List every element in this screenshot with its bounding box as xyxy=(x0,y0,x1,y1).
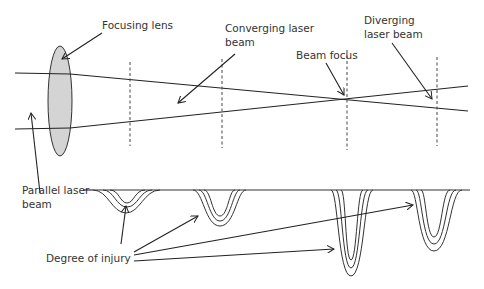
converging-beam-label-2: beam xyxy=(225,36,255,48)
focusing-lens-shape xyxy=(48,46,72,156)
diverging-beam-label-1: Diverging xyxy=(364,14,415,26)
parallel-beam-label-2: beam xyxy=(22,198,52,210)
beam-focus-label: Beam focus xyxy=(296,49,358,61)
converging-beam-label-1: Converging laser xyxy=(225,22,315,34)
dashed-reference-lines xyxy=(130,50,437,150)
injury-profile-3 xyxy=(331,190,373,276)
laser-focus-diagram: Focusing lens Converging laser beam Dive… xyxy=(0,0,484,289)
injury-profile-4 xyxy=(411,190,462,251)
pointer-arrows-top xyxy=(31,33,432,193)
laser-beam-lines xyxy=(15,73,468,129)
pointer-arrows-injury xyxy=(121,205,413,261)
degree-of-injury-label: Degree of injury xyxy=(46,252,131,264)
injury-profile-2 xyxy=(193,190,246,226)
parallel-beam-label-1: Parallel laser xyxy=(22,184,90,196)
injury-profile-1 xyxy=(93,190,160,213)
focusing-lens-label: Focusing lens xyxy=(102,19,173,31)
diverging-beam-label-2: laser beam xyxy=(364,28,423,40)
